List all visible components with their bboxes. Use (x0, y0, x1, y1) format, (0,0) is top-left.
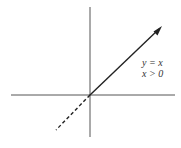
graph-diagram: y = x x > 0 (0, 0, 181, 148)
equation-label: y = x (142, 57, 163, 68)
condition-label: x > 0 (142, 68, 163, 79)
ray-dashed (56, 95, 90, 130)
arrowhead-icon (154, 26, 163, 36)
